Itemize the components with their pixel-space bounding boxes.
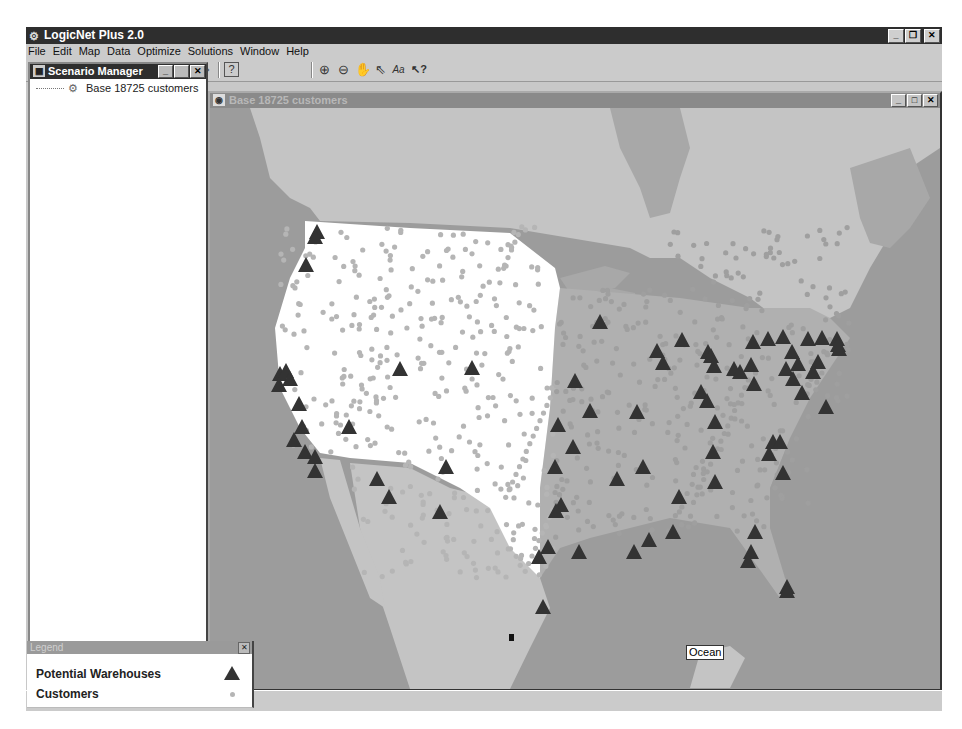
menu-window[interactable]: Window [238,44,284,59]
scenario-label: Base 18725 customers [86,82,199,94]
menu-solutions[interactable]: Solutions [186,44,238,59]
legend-customers-label: Customers [36,687,99,701]
zoom-in-icon[interactable]: ⊕ [316,61,333,78]
tree-connector [36,88,64,89]
legend-titlebar[interactable]: Legend ✕ [27,641,252,654]
app-restore-button[interactable]: ❐ [905,29,921,43]
menu-map[interactable]: Map [77,44,105,59]
zoom-out-icon[interactable]: ⊖ [335,61,352,78]
app-logo-icon: ⚙ [29,28,43,42]
legend-warehouses-label: Potential Warehouses [36,667,161,681]
scenario-manager-icon: ▦ [33,65,45,77]
menu-bar: File Edit Map Data Optimize Solutions Wi… [26,44,942,59]
map-minimize-button[interactable]: _ [891,94,906,107]
context-help-icon[interactable]: ↖? [409,61,429,78]
app-title: LogicNet Plus 2.0 [44,27,144,44]
menu-help[interactable]: Help [284,44,314,59]
toolbar-separator [218,62,220,78]
pan-hand-icon[interactable]: ✋ [354,61,371,78]
scenario-close-button[interactable]: ✕ [190,65,205,78]
scenario-manager-title: Scenario Manager [48,64,143,79]
toolbar-separator [311,62,313,78]
map-window-titlebar[interactable]: ◉ Base 18725 customers _ □ ✕ [210,93,940,108]
scenario-manager-titlebar[interactable]: ▦ Scenario Manager _ ✕ [30,64,206,79]
map-close-button[interactable]: ✕ [923,94,938,107]
scenario-maximize-button[interactable] [174,65,189,78]
north-america-map [210,108,940,689]
legend-title: Legend [30,642,63,653]
warehouse-triangle-icon [224,666,240,680]
select-pointer-icon[interactable]: ⇖ [372,61,389,78]
menu-file[interactable]: File [26,44,51,59]
menu-data[interactable]: Data [105,44,135,59]
map-window: ◉ Base 18725 customers _ □ ✕ [208,91,942,691]
map-window-icon: ◉ [213,94,225,106]
scenario-minimize-button[interactable]: _ [158,65,173,78]
map-canvas[interactable]: Ocean [210,108,940,689]
scenario-manager-panel: ▦ Scenario Manager _ ✕ ⚙ Base 18725 cust… [28,62,208,650]
app-close-button[interactable]: ✕ [924,29,940,43]
help-icon[interactable]: ? [224,62,239,77]
map-maximize-button[interactable]: □ [907,94,922,107]
app-titlebar[interactable]: ⚙ LogicNet Plus 2.0 _ ❐ ✕ [26,27,942,44]
scenario-tree-item[interactable]: ⚙ Base 18725 customers [36,82,199,94]
label-text-icon[interactable]: Aa [390,61,407,78]
menu-optimize[interactable]: Optimize [135,44,185,59]
menu-edit[interactable]: Edit [51,44,77,59]
map-window-title: Base 18725 customers [229,93,348,108]
app-minimize-button[interactable]: _ [888,29,904,43]
customer-dot-icon [230,692,235,697]
legend-panel: Legend ✕ Potential Warehouses Customers [27,641,254,708]
app-window: ⚙ LogicNet Plus 2.0 _ ❐ ✕ File Edit Map … [26,27,942,711]
scenario-gear-icon: ⚙ [68,82,82,94]
ocean-label: Ocean [686,645,724,660]
legend-close-button[interactable]: ✕ [238,642,250,654]
